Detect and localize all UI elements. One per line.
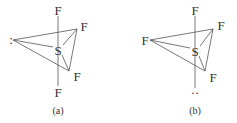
atom-f-left-b: F: [141, 33, 148, 48]
panel-b: F F F S F ·· (b): [141, 3, 224, 117]
atom-s-a: S: [54, 43, 61, 58]
atom-s-b: S: [191, 44, 198, 59]
caption-a: (a): [52, 105, 63, 117]
atom-f-lower-right-a: F: [73, 69, 80, 84]
edge-upper-lower-a: [69, 29, 77, 71]
atom-f-upper-right-a: F: [80, 19, 87, 34]
panel-a: F F S F F : (a): [9, 3, 87, 117]
edge-upper-lower-b: [205, 29, 213, 71]
edge-left-s-b: [150, 40, 190, 48]
atom-f-upper-right-b: F: [217, 18, 224, 33]
edge-left-upper-b: [150, 29, 213, 40]
edge-lower-s-a: [62, 55, 69, 71]
caption-b: (b): [189, 105, 201, 117]
lone-pair-a: :: [9, 32, 13, 47]
sf4-geometry-diagram: F F S F F : (a) F F F S F ·· (b): [0, 0, 237, 123]
atom-f-lower-right-b: F: [209, 70, 216, 85]
atom-f-top-b: F: [191, 3, 198, 18]
atom-f-top-a: F: [54, 3, 61, 18]
edge-lp-upper-a: [13, 29, 77, 40]
lone-pair-b: ··: [191, 85, 200, 100]
atom-f-bottom-a: F: [54, 85, 61, 100]
edge-lower-s-b: [199, 56, 205, 71]
